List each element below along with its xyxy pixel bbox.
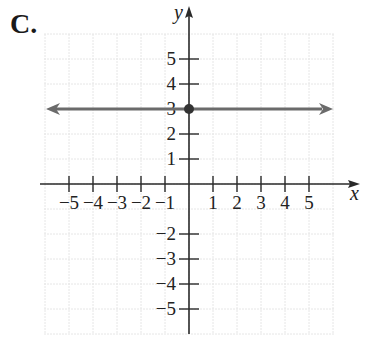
y-tick-label: 5: [167, 48, 177, 69]
y-axis-label: y: [172, 1, 183, 24]
x-tick-label: −1: [155, 192, 175, 213]
x-tick-label: 4: [280, 192, 290, 213]
x-axis-label: x: [349, 182, 359, 204]
y-tick-label: 4: [167, 73, 177, 94]
y-tick-label: −4: [156, 273, 177, 294]
x-tick-label: 2: [232, 192, 242, 213]
axes: [40, 6, 360, 334]
y-tick-label: 1: [167, 148, 177, 169]
x-tick-label: 3: [256, 192, 266, 213]
x-tick-label: −4: [83, 192, 104, 213]
x-tick-label: 1: [208, 192, 218, 213]
x-tick-label: −3: [107, 192, 127, 213]
y-tick-label: −5: [156, 298, 176, 319]
x-tick-label: −5: [59, 192, 79, 213]
x-tick-label: 5: [304, 192, 314, 213]
coordinate-plane: −5−4−3−2−112345−5−4−3−212345 x y: [0, 0, 383, 340]
x-tick-label: −2: [131, 192, 151, 213]
y-tick-label: −2: [156, 223, 176, 244]
y-tick-label: 2: [167, 123, 177, 144]
plotted-points: [184, 104, 194, 114]
y-intercept-point: [184, 104, 194, 114]
y-tick-label: −3: [156, 248, 176, 269]
